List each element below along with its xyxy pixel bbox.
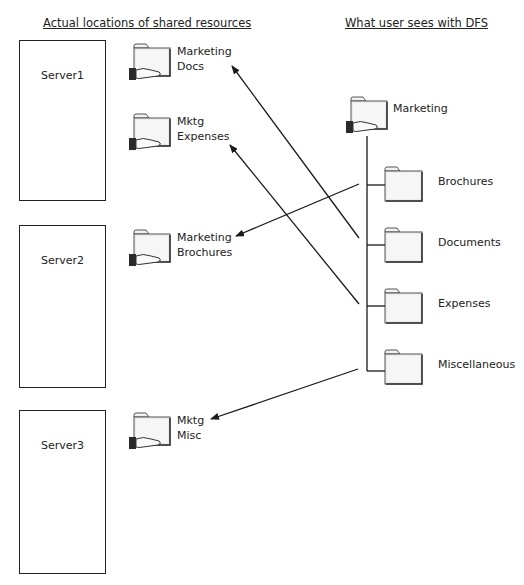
arrow-documents-to-marketing-docs xyxy=(232,66,359,238)
dfs-link-label: Brochures xyxy=(438,175,493,188)
folder-icon xyxy=(382,165,426,205)
dfs-link-label: Expenses xyxy=(438,297,490,310)
arrow-miscellaneous-to-mktg-misc xyxy=(211,369,358,419)
server-1-box: Server1 xyxy=(19,40,106,201)
shared-folder-icon xyxy=(346,95,390,135)
arrow-brochures-to-marketing-brochures xyxy=(236,184,359,236)
server-label: Server2 xyxy=(20,254,105,267)
shared-folder-icon xyxy=(129,42,173,82)
shared-folder-icon xyxy=(129,411,173,451)
server-label: Server3 xyxy=(20,439,105,452)
share-label-line2: Misc xyxy=(177,428,257,443)
share-label-line1: Marketing xyxy=(177,230,257,245)
shared-folder-icon xyxy=(129,228,173,268)
arrow-expenses-to-mktg-expenses xyxy=(230,145,359,304)
server-3-box: Server3 xyxy=(19,410,106,574)
share-label-line1: Mktg xyxy=(177,413,257,428)
share-label-line1: Mktg xyxy=(177,114,257,129)
server-label: Server1 xyxy=(20,69,105,82)
folder-icon xyxy=(382,348,426,388)
dfs-link-label: Miscellaneous xyxy=(438,358,515,371)
share-label-line2: Expenses xyxy=(177,129,257,144)
shared-folder-icon xyxy=(129,112,173,152)
server-2-box: Server2 xyxy=(19,225,106,388)
heading-dfs-view: What user sees with DFS xyxy=(345,16,488,30)
folder-icon xyxy=(382,287,426,327)
share-label-line1: Marketing xyxy=(177,44,257,59)
folder-icon xyxy=(382,226,426,266)
dfs-root-label: Marketing xyxy=(393,102,448,115)
heading-actual-locations: Actual locations of shared resources xyxy=(43,16,251,30)
share-label-line2: Brochures xyxy=(177,245,257,260)
share-label-line2: Docs xyxy=(177,59,257,74)
dfs-link-label: Documents xyxy=(438,236,501,249)
